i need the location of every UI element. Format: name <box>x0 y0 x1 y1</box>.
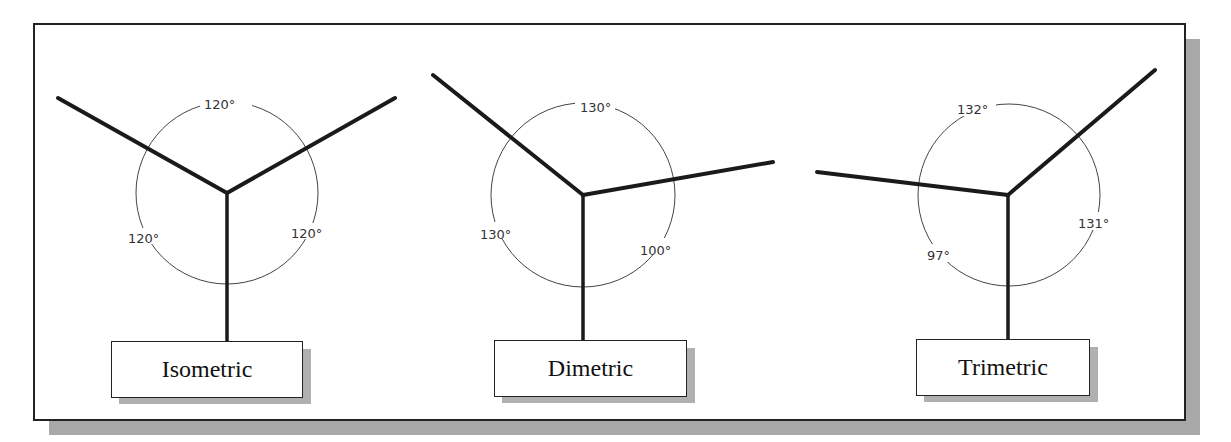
isometric-angle-top: 120° <box>204 97 235 112</box>
trimetric-axes: 132° 97° 131° <box>817 70 1155 339</box>
dimetric-label-box: Dimetric <box>494 340 687 397</box>
dimetric-angle-left: 130° <box>480 227 511 242</box>
isometric-angle-left: 120° <box>128 231 159 246</box>
dimetric-angle-top: 130° <box>580 100 611 115</box>
isometric-axes: 120° 120° 120° <box>58 97 395 341</box>
trimetric-label-box: Trimetric <box>916 339 1090 396</box>
trimetric-angle-top: 132° <box>957 102 988 117</box>
trimetric-angle-left: 97° <box>927 248 950 263</box>
isometric-label-box: Isometric <box>111 341 303 398</box>
dimetric-angle-right: 100° <box>640 243 671 258</box>
diagram-canvas: 120° 120° 120° 130° 130° 100° 132° <box>0 0 1231 442</box>
isometric-angle-right: 120° <box>291 226 322 241</box>
dimetric-axes: 130° 130° 100° <box>433 75 773 340</box>
trimetric-angle-right: 131° <box>1078 216 1109 231</box>
